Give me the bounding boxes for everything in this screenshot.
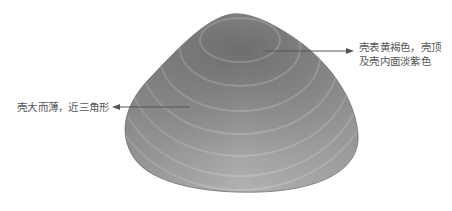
annotation-line: 及壳内面淡紫色 bbox=[359, 54, 441, 68]
annotation-line: 壳表黄褐色，壳顶 bbox=[359, 40, 441, 54]
shell-figure: 壳表黄褐色，壳顶 及壳内面淡紫色 壳大而薄，近三角形 bbox=[0, 0, 452, 211]
annotation-shell-color: 壳表黄褐色，壳顶 及壳内面淡紫色 bbox=[359, 40, 441, 68]
annotation-line: 壳大而薄，近三角形 bbox=[17, 100, 110, 114]
annotation-shell-shape: 壳大而薄，近三角形 bbox=[17, 100, 110, 114]
